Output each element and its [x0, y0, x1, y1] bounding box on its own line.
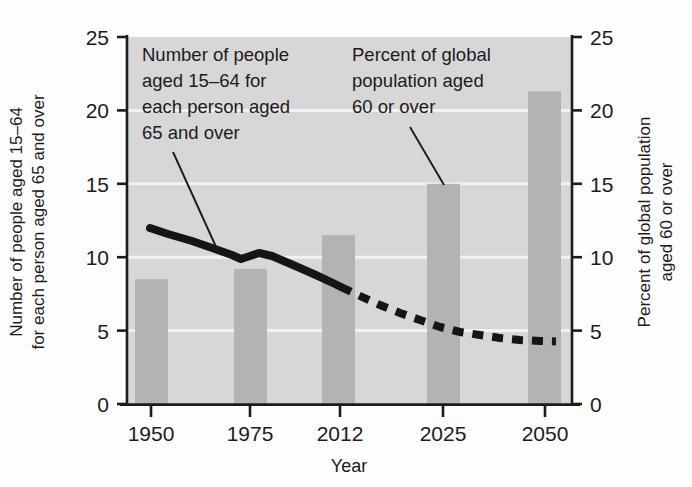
- ytick-label-25: 25: [86, 26, 109, 49]
- bar-2025: [427, 184, 460, 404]
- chart-figure: 25 20 15 10 5 0 25 20 15 10 5 0 1950 197…: [0, 0, 692, 487]
- ytick-label-5: 5: [97, 320, 109, 343]
- right-annotation-line2: population aged: [352, 70, 484, 91]
- xtick-label-2050: 2050: [522, 422, 569, 445]
- ytick-label-20: 20: [86, 99, 109, 122]
- xtick-label-2025: 2025: [420, 422, 467, 445]
- bar-1975: [234, 269, 267, 404]
- y2tick-label-0: 0: [590, 393, 602, 416]
- y2tick-label-25: 25: [590, 26, 613, 49]
- bar-2012: [322, 235, 355, 404]
- right-axis-title-line1: Percent of global population: [635, 117, 654, 328]
- dual-axis-chart: 25 20 15 10 5 0 25 20 15 10 5 0 1950 197…: [0, 0, 692, 487]
- y2tick-label-5: 5: [590, 320, 602, 343]
- left-annotation-line2: aged 15–64 for: [142, 70, 266, 91]
- ytick-label-15: 15: [86, 173, 109, 196]
- left-annotation-line4: 65 and over: [142, 122, 240, 143]
- right-annotation-line1: Percent of global: [352, 44, 491, 65]
- left-annotation-line3: each person aged: [142, 96, 290, 117]
- bar-1950: [135, 279, 168, 404]
- left-axis-title-line2: for each person aged 65 and over: [29, 94, 48, 350]
- xtick-label-1975: 1975: [227, 422, 274, 445]
- xtick-label-2012: 2012: [317, 422, 364, 445]
- ytick-label-10: 10: [86, 246, 109, 269]
- y2tick-label-20: 20: [590, 99, 613, 122]
- right-annotation-line3: 60 or over: [352, 96, 435, 117]
- right-axis-title-line2: aged 60 or over: [657, 162, 676, 281]
- x-axis-title: Year: [331, 456, 367, 476]
- ytick-label-0: 0: [97, 393, 109, 416]
- y2tick-label-10: 10: [590, 246, 613, 269]
- bar-2050: [528, 91, 561, 404]
- left-axis-title-line1: Number of people aged 15–64: [7, 107, 26, 337]
- xtick-label-1950: 1950: [128, 422, 175, 445]
- left-annotation-line1: Number of people: [142, 44, 289, 65]
- y2tick-label-15: 15: [590, 173, 613, 196]
